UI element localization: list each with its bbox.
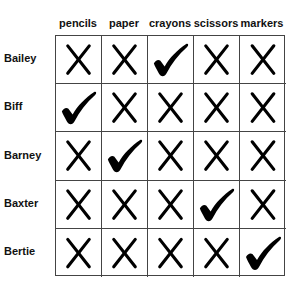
x-mark-icon [56, 229, 101, 277]
check-mark-icon [240, 229, 286, 277]
grid-cell-barney-crayons[interactable] [148, 132, 194, 180]
row-header-baxter: Baxter [4, 197, 52, 209]
grid-cell-bertie-crayons[interactable] [148, 229, 194, 277]
grid-cell-bertie-markers[interactable] [240, 229, 286, 277]
grid-cell-bailey-markers[interactable] [240, 36, 286, 84]
grid-cell-biff-pencils[interactable] [56, 84, 102, 132]
x-mark-icon [240, 181, 286, 228]
grid-cell-barney-scissors[interactable] [194, 132, 240, 180]
column-header-paper: paper [101, 17, 147, 29]
column-header-pencils: pencils [55, 17, 101, 29]
x-mark-icon [102, 181, 147, 228]
grid-cell-bailey-scissors[interactable] [194, 36, 240, 84]
row-header-bertie: Bertie [4, 245, 52, 257]
grid-cell-barney-pencils[interactable] [56, 132, 102, 180]
row-header-barney: Barney [4, 149, 52, 161]
grid-cell-biff-paper[interactable] [102, 84, 148, 132]
x-mark-icon [148, 132, 193, 179]
row-header-bailey: Bailey [4, 52, 52, 64]
grid-cell-bailey-crayons[interactable] [148, 36, 194, 84]
x-mark-icon [194, 36, 239, 83]
grid-cell-bertie-pencils[interactable] [56, 229, 102, 277]
grid-cell-baxter-markers[interactable] [240, 181, 286, 229]
x-mark-icon [56, 181, 101, 228]
grid-cell-biff-crayons[interactable] [148, 84, 194, 132]
x-mark-icon [148, 84, 193, 131]
check-mark-icon [56, 84, 101, 131]
x-mark-icon [148, 229, 193, 277]
x-mark-icon [240, 132, 286, 179]
x-mark-icon [102, 84, 147, 131]
x-mark-icon [240, 84, 286, 131]
x-mark-icon [194, 229, 239, 277]
check-mark-icon [148, 36, 193, 83]
x-mark-icon [194, 84, 239, 131]
grid-cell-biff-markers[interactable] [240, 84, 286, 132]
row-header-biff: Biff [4, 100, 52, 112]
x-mark-icon [148, 181, 193, 228]
grid-cell-baxter-pencils[interactable] [56, 181, 102, 229]
grid-cell-bailey-pencils[interactable] [56, 36, 102, 84]
x-mark-icon [102, 36, 147, 83]
check-mark-icon [194, 181, 239, 228]
grid-cell-baxter-scissors[interactable] [194, 181, 240, 229]
grid-cell-baxter-crayons[interactable] [148, 181, 194, 229]
grid-cell-bailey-paper[interactable] [102, 36, 148, 84]
grid-cell-baxter-paper[interactable] [102, 181, 148, 229]
x-mark-icon [240, 36, 286, 83]
x-mark-icon [56, 132, 101, 179]
logic-grid [55, 35, 285, 276]
grid-cell-barney-markers[interactable] [240, 132, 286, 180]
grid-cell-barney-paper[interactable] [102, 132, 148, 180]
column-header-scissors: scissors [193, 17, 239, 29]
grid-cell-biff-scissors[interactable] [194, 84, 240, 132]
column-header-crayons: crayons [147, 17, 193, 29]
x-mark-icon [56, 36, 101, 83]
grid-cell-bertie-scissors[interactable] [194, 229, 240, 277]
grid-cell-bertie-paper[interactable] [102, 229, 148, 277]
x-mark-icon [102, 229, 147, 277]
column-header-markers: markers [239, 17, 285, 29]
check-mark-icon [102, 132, 147, 179]
x-mark-icon [194, 132, 239, 179]
